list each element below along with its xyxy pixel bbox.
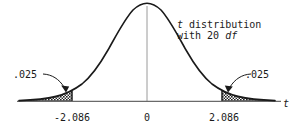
x-axis-variable-label: t: [283, 98, 289, 109]
x-tick-label-positive: 2.086: [196, 112, 252, 123]
distribution-caption: t distribution with 20 df: [177, 19, 261, 41]
left-tail-area-label: .025: [13, 69, 37, 80]
left-leader-line: [43, 74, 64, 87]
x-tick-label-negative: -2.086: [44, 112, 100, 123]
caption-line-2-prefix: with 20: [177, 30, 225, 41]
caption-df-symbol: df: [225, 30, 237, 41]
x-tick-label-zero: 0: [134, 112, 160, 123]
caption-line-1: t distribution: [177, 19, 261, 30]
right-tail-area-label: .025: [245, 69, 269, 80]
caption-line-2: with 20 df: [177, 30, 261, 41]
caption-line-1-rest: distribution: [183, 19, 261, 30]
t-distribution-figure: t distribution with 20 df .025 .025 -2.0…: [0, 0, 300, 129]
